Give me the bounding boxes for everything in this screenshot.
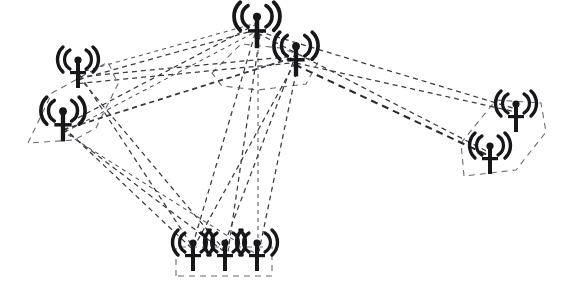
- radio-wave-arc: [266, 6, 272, 27]
- radio-wave-arc: [86, 50, 91, 69]
- radio-wave-arc: [274, 2, 280, 30]
- network-link: [78, 63, 296, 84]
- radio-wave-arc: [265, 233, 270, 252]
- radio-wave-arc: [312, 32, 318, 59]
- network-links-layer: [61, 23, 517, 253]
- network-link: [77, 23, 256, 73]
- base-station-node[interactable]: [496, 91, 537, 132]
- radio-wave-arc: [180, 233, 185, 252]
- radio-wave-arc: [505, 133, 510, 158]
- radio-wave-arc: [531, 91, 536, 116]
- radio-wave-arc: [65, 50, 70, 69]
- radio-wave-arc: [496, 91, 501, 116]
- base-station-node[interactable]: [470, 133, 511, 174]
- base-station-nodes-layer: [41, 2, 537, 271]
- radio-wave-arc: [272, 230, 277, 255]
- network-link: [259, 63, 298, 251]
- radio-wave-arc: [58, 47, 63, 72]
- radio-wave-arc: [281, 35, 287, 56]
- topology-canvas: [0, 0, 568, 290]
- antenna-tower-icon[interactable]: [496, 91, 537, 132]
- radio-wave-arc: [48, 100, 54, 121]
- cluster-boundaries-layer: [28, 44, 546, 276]
- antenna-tower-icon[interactable]: [41, 97, 85, 141]
- radio-wave-arc: [470, 133, 475, 158]
- antenna-tower-icon[interactable]: [58, 47, 99, 88]
- radio-wave-arc: [234, 2, 240, 30]
- base-station-node[interactable]: [274, 32, 318, 76]
- network-link: [295, 65, 489, 156]
- radio-wave-arc: [274, 32, 280, 59]
- radio-wave-arc: [72, 100, 78, 121]
- base-station-node[interactable]: [41, 97, 85, 141]
- network-link: [191, 34, 255, 251]
- antenna-tower-icon[interactable]: [470, 133, 511, 174]
- network-link: [61, 131, 255, 254]
- topology-diagram: [0, 0, 568, 290]
- network-link: [80, 75, 195, 250]
- radio-wave-arc: [498, 136, 503, 155]
- radio-wave-arc: [524, 94, 529, 113]
- network-link: [192, 63, 295, 251]
- network-link: [296, 63, 516, 112]
- radio-wave-arc: [173, 230, 178, 255]
- radio-wave-arc: [79, 97, 85, 124]
- base-station-node[interactable]: [58, 47, 99, 88]
- radio-wave-arc: [242, 6, 248, 27]
- antenna-tower-icon[interactable]: [274, 32, 318, 76]
- network-link: [65, 30, 259, 132]
